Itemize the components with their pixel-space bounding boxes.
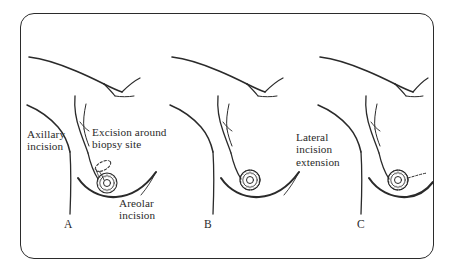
panel-b-figure [170,57,299,214]
label-lateral-incision-extension: Lateral incision extension [296,131,340,168]
anatomical-line-art [0,0,454,273]
lateral-extension-line [408,173,427,178]
panel-letter-c: C [357,218,365,230]
panel-letter-b: B [204,218,212,230]
label-areolar-incision: Areolar incision [119,197,155,222]
figure-root: Axillary incision Excision around biopsy… [0,0,454,273]
label-axillary-incision: Axillary incision [27,128,65,153]
panel-letter-a: A [64,218,72,230]
label-excision-around-biopsy-site: Excision around biopsy site [92,126,167,151]
